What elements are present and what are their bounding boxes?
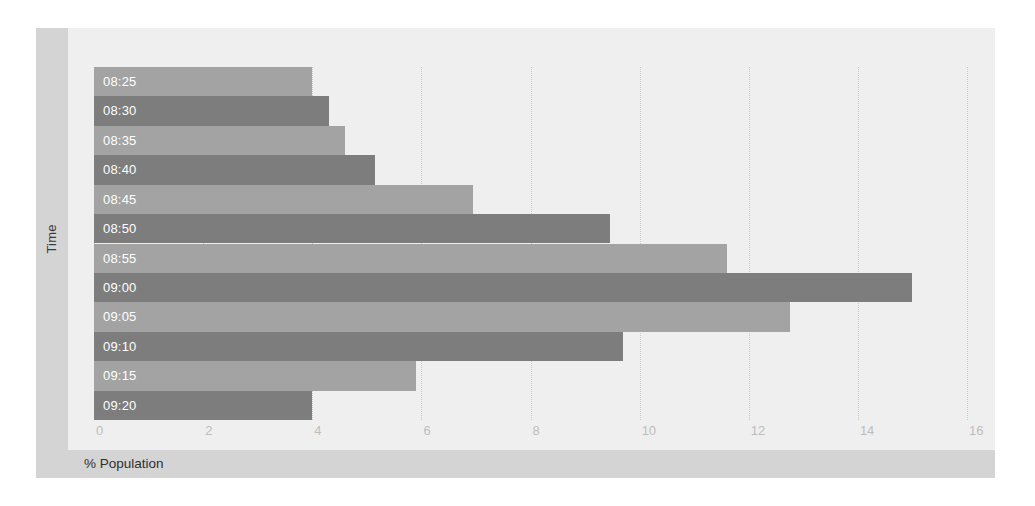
bar-0905[interactable] xyxy=(94,302,790,331)
x-tick-label-8: 8 xyxy=(533,423,540,438)
bar-0855[interactable] xyxy=(94,244,727,273)
x-tick-label-2: 2 xyxy=(205,423,212,438)
bar-row[interactable]: 08:55 xyxy=(94,244,967,273)
bar-label-0835: 08:35 xyxy=(103,126,137,155)
bar-row[interactable]: 09:20 xyxy=(94,391,967,420)
bar-label-0910: 09:10 xyxy=(103,332,137,361)
x-tick-label-4: 4 xyxy=(314,423,321,438)
x-tick-label-16: 16 xyxy=(969,423,983,438)
bar-label-0825: 08:25 xyxy=(103,67,137,96)
y-axis-title: Time xyxy=(36,28,68,450)
bar-label-0845: 08:45 xyxy=(103,185,137,214)
bar-label-0840: 08:40 xyxy=(103,155,137,184)
bar-label-0915: 09:15 xyxy=(103,361,137,390)
bar-row[interactable]: 08:50 xyxy=(94,214,967,243)
x-axis-band: % Population xyxy=(36,450,995,478)
bar-label-0830: 08:30 xyxy=(103,96,137,125)
x-tick-label-12: 12 xyxy=(751,423,765,438)
x-tick-label-0: 0 xyxy=(96,423,103,438)
bar-label-0905: 09:05 xyxy=(103,302,137,331)
bar-row[interactable]: 08:35 xyxy=(94,126,967,155)
bar-0910[interactable] xyxy=(94,332,623,361)
bar-0850[interactable] xyxy=(94,214,610,243)
plot-area: 0246810121416 08:2508:3008:3508:4008:450… xyxy=(68,28,995,450)
bar-0900[interactable] xyxy=(94,273,912,302)
bar-row[interactable]: 09:15 xyxy=(94,361,967,390)
bar-label-0920: 09:20 xyxy=(103,391,137,420)
bar-row[interactable]: 08:40 xyxy=(94,155,967,184)
x-tick-label-6: 6 xyxy=(423,423,430,438)
plot-inner: 0246810121416 08:2508:3008:3508:4008:450… xyxy=(94,67,967,420)
bar-label-0855: 08:55 xyxy=(103,244,137,273)
bar-label-0900: 09:00 xyxy=(103,273,137,302)
bar-0845[interactable] xyxy=(94,185,473,214)
gridline-16 xyxy=(967,67,968,420)
bar-row[interactable]: 08:25 xyxy=(94,67,967,96)
bar-chart-figure: Time 0246810121416 08:2508:3008:3508:400… xyxy=(36,28,995,478)
x-tick-label-10: 10 xyxy=(642,423,656,438)
bar-row[interactable]: 08:30 xyxy=(94,96,967,125)
bar-row[interactable]: 09:00 xyxy=(94,273,967,302)
bar-0915[interactable] xyxy=(94,361,416,390)
bar-row[interactable]: 08:45 xyxy=(94,185,967,214)
bar-label-0850: 08:50 xyxy=(103,214,137,243)
x-tick-label-14: 14 xyxy=(860,423,874,438)
bar-row[interactable]: 09:05 xyxy=(94,302,967,331)
y-axis-band: Time xyxy=(36,28,68,450)
bar-row[interactable]: 09:10 xyxy=(94,332,967,361)
x-axis-title: % Population xyxy=(84,450,164,478)
